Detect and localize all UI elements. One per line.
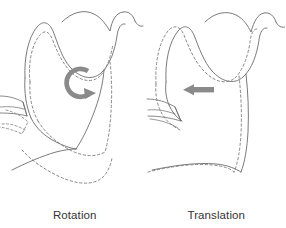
caption-translation: Translation [144,208,286,222]
caption-row: Rotation Translation [0,208,285,222]
figure-root: Rotation Translation [0,0,285,228]
anatomy-illustration [0,0,285,228]
caption-rotation: Rotation [0,208,144,222]
figure-background [0,0,285,228]
translation-arrow-shaft [192,87,214,92]
